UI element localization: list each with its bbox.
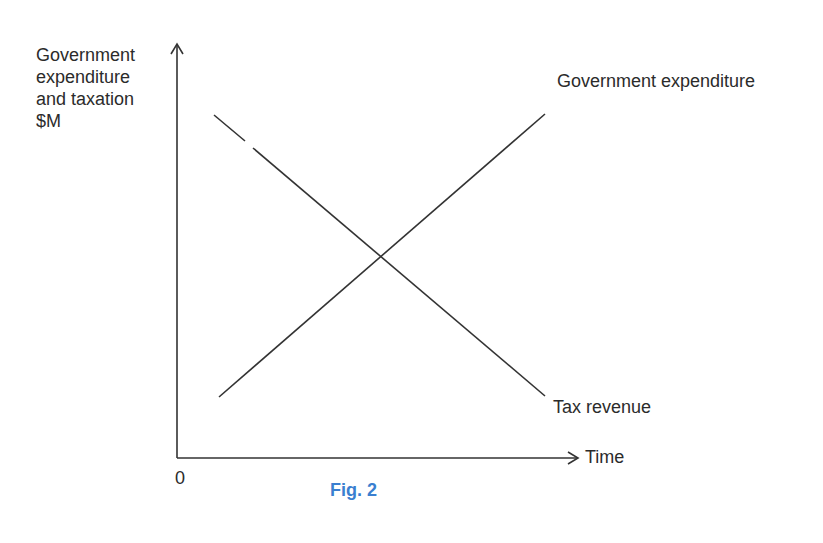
y-label-line: Government [36,44,135,66]
figure-caption: Fig. 2 [330,480,377,501]
tax-rev-label: Tax revenue [553,396,651,418]
tax-rev-line-b [253,148,545,396]
y-label-line: $M [36,110,135,132]
x-axis-label: Time [585,446,624,468]
origin-label: 0 [175,467,185,489]
y-label-line: and taxation [36,88,135,110]
y-label-line: expenditure [36,66,135,88]
tax-rev-line-a [214,115,245,141]
y-axis-label: Government expenditure and taxation $M [36,44,135,132]
gov-exp-label: Government expenditure [557,70,755,92]
